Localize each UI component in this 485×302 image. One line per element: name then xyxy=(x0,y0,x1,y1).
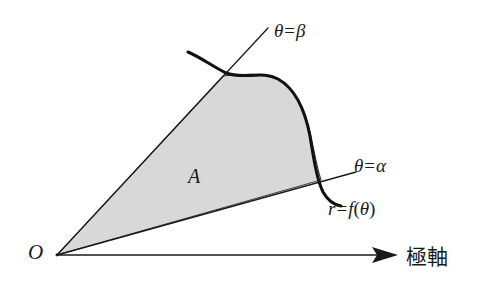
polar-axis-label: 極軸 xyxy=(406,240,448,270)
theta-alpha-lhs: θ xyxy=(354,155,363,176)
area-label: A xyxy=(188,165,200,188)
theta-beta-label: θ=β xyxy=(274,20,306,42)
curve-paren-close: ) xyxy=(369,198,375,219)
theta-beta-rhs: β xyxy=(296,20,305,41)
theta-beta-equals: = xyxy=(283,20,296,41)
polar-curve-label: r=f(θ) xyxy=(328,198,375,220)
origin-point xyxy=(56,254,59,257)
curve-argument: θ xyxy=(360,198,369,219)
theta-alpha-rhs: α xyxy=(376,155,386,176)
theta-beta-lhs: θ xyxy=(274,20,283,41)
origin-label: O xyxy=(28,240,43,265)
theta-alpha-equals: = xyxy=(363,155,376,176)
theta-alpha-label: θ=α xyxy=(354,155,386,177)
curve-equals: = xyxy=(335,198,348,219)
